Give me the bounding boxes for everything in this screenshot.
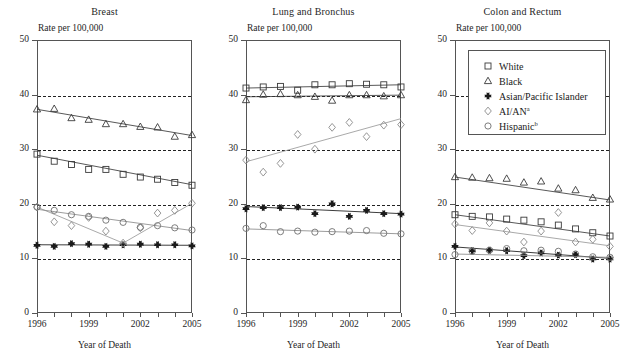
data-point [277, 204, 284, 211]
data-point [51, 218, 58, 226]
data-point [277, 159, 284, 167]
chart-panel: Lung and BronchusRate per 100,000Year of… [209, 0, 418, 364]
data-point [85, 241, 92, 248]
trend-line [246, 229, 401, 234]
trend-line [246, 85, 401, 88]
legend-item-label: White [499, 61, 523, 72]
data-point [34, 151, 40, 157]
data-point [188, 242, 195, 249]
legend-footnote-marker: b [535, 120, 538, 127]
data-point [68, 212, 74, 218]
data-point [521, 238, 528, 246]
legend-item[interactable]: Hispanicb [479, 119, 538, 133]
trend-line [455, 254, 610, 257]
figure-canvas: BreastRate per 100,000Year of Death01020… [0, 0, 629, 364]
data-point [397, 91, 404, 97]
square-marker [479, 59, 497, 73]
data-point [33, 106, 40, 112]
data-point [346, 119, 353, 127]
data-point [328, 200, 335, 207]
data-point [188, 131, 195, 137]
data-point [294, 131, 301, 139]
data-point [520, 179, 527, 185]
data-series [451, 173, 613, 202]
data-point [242, 205, 249, 212]
data-point [294, 203, 301, 210]
data-point [243, 225, 249, 231]
data-series [33, 105, 195, 139]
data-point [346, 91, 353, 97]
data-point [363, 207, 370, 214]
data-point [380, 210, 387, 217]
data-point [486, 174, 493, 180]
data-point [171, 133, 178, 139]
data-point [242, 96, 249, 102]
data-series [243, 119, 405, 176]
data-point [154, 209, 161, 217]
trend-line [37, 245, 192, 246]
data-point [295, 87, 301, 93]
data-point [555, 185, 562, 191]
legend-item[interactable]: AI/ANa [479, 104, 530, 118]
legend-item-label: Black [499, 76, 522, 87]
data-point [538, 219, 544, 225]
data-series [34, 199, 196, 247]
trend-line [37, 155, 192, 184]
data-point [103, 166, 109, 172]
legend-item[interactable]: White [479, 59, 523, 73]
data-point [346, 228, 352, 234]
legend-label-text: AI/AN [499, 106, 527, 117]
data-point [329, 97, 336, 103]
legend-item-label: Hispanicb [499, 120, 538, 132]
data-point [277, 229, 283, 235]
data-point [469, 227, 476, 235]
data-point [154, 241, 161, 248]
data-point [295, 228, 301, 234]
data-point [452, 220, 459, 228]
data-point [606, 196, 613, 202]
data-point [572, 238, 579, 246]
data-point [277, 90, 284, 96]
trend-line [246, 119, 401, 162]
series-layer [209, 0, 418, 364]
data-series [33, 240, 195, 250]
triangle-marker [479, 74, 497, 88]
data-point [538, 227, 545, 235]
legend-item-label: Asian/Pacific Islander [499, 91, 588, 102]
data-point [86, 166, 92, 172]
data-point [469, 213, 475, 219]
cross-marker [479, 89, 497, 103]
trend-line [455, 215, 610, 236]
trend-line [455, 225, 610, 246]
data-series [452, 209, 614, 251]
data-point [243, 156, 250, 164]
trend-line [37, 207, 123, 243]
chart-panel: BreastRate per 100,000Year of Death01020… [0, 0, 209, 364]
data-point [486, 247, 493, 254]
data-point [34, 204, 40, 210]
data-point [329, 82, 335, 88]
legend-label-text: White [499, 61, 523, 72]
circle-marker [479, 119, 497, 133]
data-point [451, 173, 458, 179]
data-point [103, 217, 109, 223]
data-point [503, 175, 510, 181]
data-point [137, 241, 144, 248]
data-point [51, 105, 58, 111]
data-point [572, 186, 579, 192]
legend-label-text: Hispanic [499, 121, 535, 132]
data-point [277, 83, 283, 89]
data-point [363, 91, 370, 97]
legend-item[interactable]: Asian/Pacific Islander [479, 89, 588, 103]
data-series [242, 90, 404, 103]
legend-item-label: AI/ANa [499, 105, 530, 117]
data-point [85, 116, 92, 122]
legend-footnote-marker: a [527, 105, 530, 112]
legend-label-text: Asian/Pacific Islander [499, 91, 588, 102]
legend-item[interactable]: Black [479, 74, 522, 88]
data-point [589, 235, 596, 243]
data-point [312, 229, 318, 235]
data-point [346, 213, 353, 220]
data-point [555, 222, 561, 228]
data-point [33, 242, 40, 249]
